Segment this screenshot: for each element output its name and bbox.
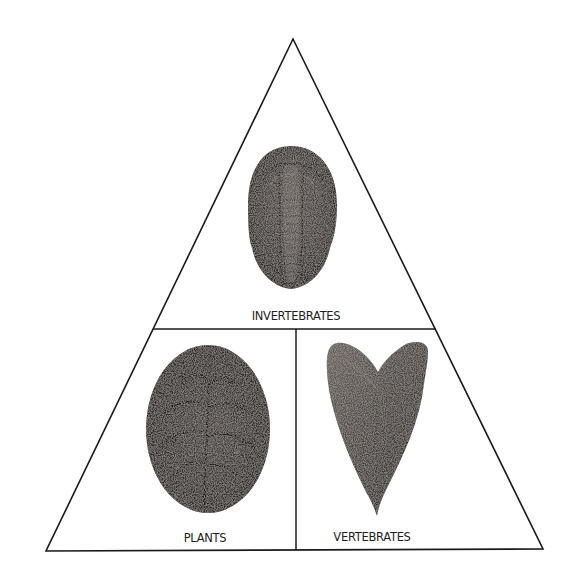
- label-vertebrates: VERTEBRATES: [333, 530, 410, 544]
- triangle-outline: [46, 39, 543, 551]
- fern-leaf-fossil-image: [146, 345, 270, 513]
- shark-tooth-fossil-image: [327, 342, 428, 516]
- triangle-frame: [46, 39, 543, 551]
- trilobite-fossil-image: [248, 146, 337, 289]
- label-invertebrates: INVERTEBRATES: [252, 309, 341, 323]
- label-plants: PLANTS: [184, 531, 227, 545]
- fossil-classification-diagram: INVERTEBRATES PLANTS VERTEBRATES: [0, 0, 583, 582]
